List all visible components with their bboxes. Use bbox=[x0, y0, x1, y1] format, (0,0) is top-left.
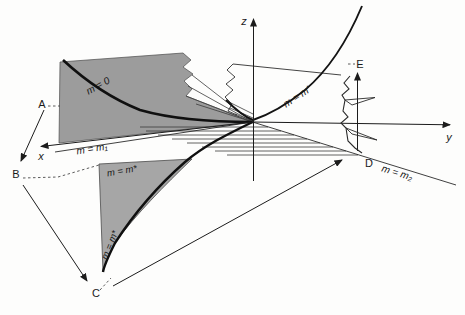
point-a-label: A bbox=[38, 98, 46, 110]
e-squiggle-curve bbox=[341, 76, 362, 153]
mstar-plane bbox=[99, 122, 253, 272]
mprime-label: m = m′ bbox=[281, 83, 313, 109]
leader-b bbox=[23, 165, 99, 178]
y-axis-label: y bbox=[445, 131, 453, 143]
m2-label: m = m₂ bbox=[380, 163, 414, 183]
arrow-b-to-c bbox=[23, 185, 87, 281]
figure-stage: z y x A B C D E m = 0 m = m₁ m = m′ m = … bbox=[0, 0, 465, 315]
point-d-label: D bbox=[365, 157, 373, 169]
e-wedge-lower bbox=[346, 128, 377, 140]
z-axis-label: z bbox=[240, 15, 247, 27]
y-axis bbox=[253, 122, 451, 125]
labels: z y x A B C D E m = 0 m = m₁ m = m′ m = … bbox=[12, 15, 453, 299]
m0-plane bbox=[59, 53, 253, 143]
m1-label: m = m₁ bbox=[76, 141, 109, 157]
e-wedge-upper bbox=[345, 98, 375, 106]
point-c-label: C bbox=[92, 287, 100, 299]
leader-c bbox=[100, 278, 111, 290]
energy-axis-group bbox=[341, 73, 377, 153]
point-e-label: E bbox=[356, 58, 363, 70]
figure-canvas: z y x A B C D E m = 0 m = m₁ m = m′ m = … bbox=[0, 0, 465, 315]
x-axis-label: x bbox=[37, 150, 44, 162]
m0-plane-surface bbox=[59, 53, 253, 143]
point-b-label: B bbox=[12, 168, 19, 180]
